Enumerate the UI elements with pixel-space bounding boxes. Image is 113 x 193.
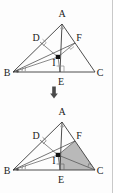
- label-D: D: [32, 130, 39, 141]
- point-I-marker: [56, 153, 60, 157]
- figure-bottom-triangle: A B C D E F I: [0, 98, 108, 193]
- segment-BI: [13, 155, 58, 170]
- point-markers-bottom: [16, 125, 63, 171]
- segment-BF: [13, 43, 75, 72]
- point-B-marker: [16, 70, 18, 72]
- vertex-labels-bottom: A B C D E F I: [4, 106, 104, 185]
- segment-ID: [40, 140, 58, 155]
- label-E: E: [58, 174, 64, 185]
- down-arrow-icon: [50, 87, 58, 99]
- segment-BI: [13, 57, 58, 72]
- point-I-marker: [56, 55, 60, 59]
- cevians-top: [13, 24, 75, 72]
- point-A-marker: [61, 125, 64, 128]
- label-C: C: [97, 67, 104, 78]
- shaded-region-ifce: [58, 141, 95, 170]
- angle-arc-abi: [22, 167, 23, 170]
- point-B-marker: [16, 168, 18, 170]
- label-A: A: [58, 8, 66, 19]
- diagram-page: A B C D E F I ⬇: [0, 0, 113, 193]
- label-C: C: [97, 165, 104, 176]
- point-markers-top: [16, 27, 63, 73]
- label-I: I: [52, 155, 55, 166]
- point-A-marker: [61, 27, 64, 30]
- label-B: B: [4, 67, 11, 78]
- figure-top-triangle: A B C D E F I: [0, 0, 108, 92]
- label-D: D: [32, 32, 39, 43]
- label-F: F: [76, 130, 82, 141]
- label-B: B: [4, 165, 11, 176]
- label-I: I: [52, 57, 55, 68]
- label-A: A: [58, 106, 66, 117]
- label-F: F: [76, 32, 82, 43]
- segment-AE: [60, 24, 62, 72]
- segment-ID: [40, 42, 58, 57]
- segment-IE: [58, 57, 60, 72]
- vertex-labels-top: A B C D E F I: [4, 8, 104, 87]
- angle-arc-abi: [22, 69, 23, 72]
